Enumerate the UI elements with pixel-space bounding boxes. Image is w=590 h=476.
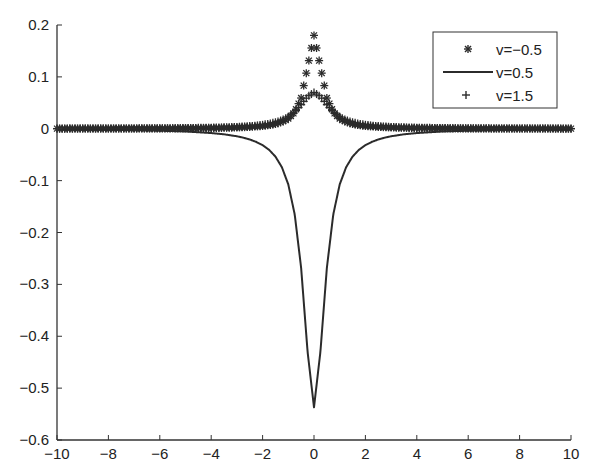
x-tick-label: −4 bbox=[203, 445, 220, 462]
legend: v=−0.5 v=0.5 v=1.5 bbox=[433, 32, 557, 108]
y-tick-label: 0.2 bbox=[28, 16, 49, 33]
x-tick-label: −8 bbox=[100, 445, 117, 462]
y-tick-label: −0.1 bbox=[19, 172, 49, 189]
y-tick-label: −0.2 bbox=[19, 224, 49, 241]
y-tick-label: −0.6 bbox=[19, 431, 49, 448]
chart: −10−8−6−4−20246810 0.20.10−0.1−0.2−0.3−0… bbox=[0, 0, 590, 476]
x-tick-label: 10 bbox=[563, 445, 580, 462]
x-tick-label: 4 bbox=[413, 445, 421, 462]
x-tick-label: 6 bbox=[464, 445, 472, 462]
legend-label: v=−0.5 bbox=[496, 41, 542, 58]
x-tick-label: −6 bbox=[151, 445, 168, 462]
legend-label: v=1.5 bbox=[496, 87, 533, 104]
y-tick-label: −0.3 bbox=[19, 275, 49, 292]
x-tick-label: 8 bbox=[515, 445, 523, 462]
y-tick-label: 0 bbox=[41, 120, 49, 137]
series-solid-line bbox=[57, 129, 571, 407]
x-tick-label: 2 bbox=[361, 445, 369, 462]
y-tick-label: −0.4 bbox=[19, 327, 49, 344]
x-axis-ticks: −10−8−6−4−20246810 bbox=[44, 435, 579, 462]
y-tick-label: −0.5 bbox=[19, 379, 49, 396]
legend-label: v=0.5 bbox=[496, 64, 533, 81]
x-tick-label: 0 bbox=[310, 445, 318, 462]
asterisk-marker-icon bbox=[464, 45, 472, 53]
y-tick-label: 0.1 bbox=[28, 68, 49, 85]
x-tick-label: −2 bbox=[254, 445, 271, 462]
y-axis-ticks: 0.20.10−0.1−0.2−0.3−0.4−0.5−0.6 bbox=[19, 16, 62, 448]
